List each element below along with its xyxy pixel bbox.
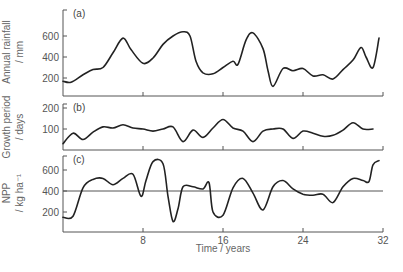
y-tick-label: 200 [42, 103, 59, 114]
y-tick-label: 400 [42, 186, 59, 197]
y-tick-label: 600 [42, 165, 59, 176]
x-tick-label: 24 [297, 235, 309, 246]
panel-label: (a) [73, 8, 85, 19]
panel-label: (c) [73, 154, 85, 165]
x-axis-title: Time / years [196, 243, 251, 254]
y-axis-title: Annual rainfall [1, 20, 12, 83]
series-line [63, 120, 373, 144]
y-tick-label: 200 [42, 207, 59, 218]
y-axis-title: Growth period [1, 96, 12, 159]
series-line [63, 32, 379, 87]
y-tick-label: 400 [42, 52, 59, 63]
y-axis-title: / days [14, 114, 25, 141]
chart-figure: 200400600(a)Annual rainfall/ mm100200(b)… [0, 0, 403, 272]
panel-c: 200400600(c)NPP/ kg ha⁻¹8162432 [1, 154, 389, 246]
y-tick-label: 200 [42, 73, 59, 84]
y-axis-title: / mm [14, 41, 25, 63]
y-tick-label: 600 [42, 31, 59, 42]
panel-label: (b) [73, 102, 85, 113]
x-tick-label: 8 [140, 235, 146, 246]
y-tick-label: 100 [42, 124, 59, 135]
panel-b: 100200(b)Growth period/ days [1, 96, 383, 159]
x-tick-label: 32 [377, 235, 389, 246]
y-axis-title: NPP [1, 182, 12, 203]
panel-a: 200400600(a)Annual rainfall/ mm [1, 8, 383, 96]
y-axis-title: / kg ha⁻¹ [14, 173, 25, 212]
